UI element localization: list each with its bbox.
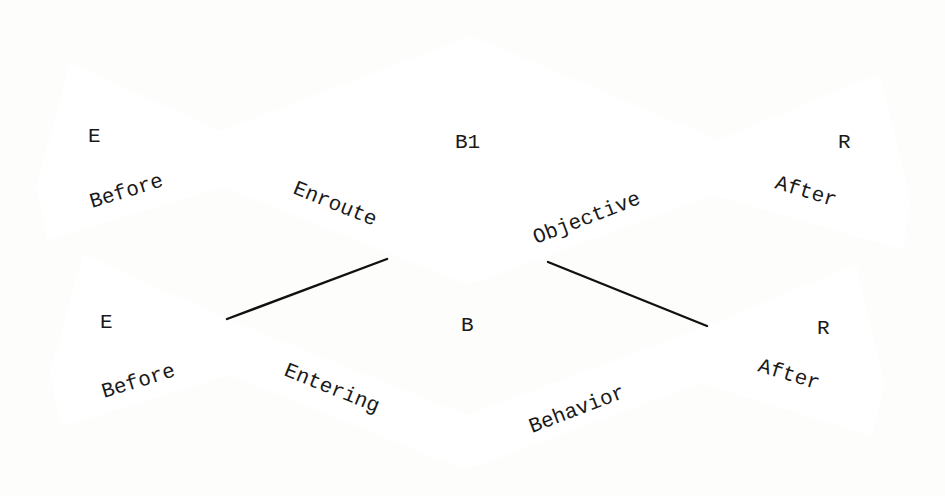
bottom-left-triangle-label: E xyxy=(100,311,113,334)
bottom-diagram: E B R Before Entering Behavior After xyxy=(50,254,884,470)
bottom-right-triangle-label: R xyxy=(817,317,830,340)
instructional-sequence-diagram: E B1 R Before Enroute Objective After E … xyxy=(0,0,945,496)
top-right-triangle-label: R xyxy=(838,131,851,154)
bottom-center-label: B xyxy=(461,314,474,337)
top-diagram: E B1 R Before Enroute Objective After xyxy=(36,36,910,285)
bottom-center-upper-left-edge xyxy=(227,259,387,319)
bottom-center-upper-right-edge xyxy=(548,262,707,326)
top-left-triangle-label: E xyxy=(88,125,101,148)
top-center-label: B1 xyxy=(455,131,480,154)
